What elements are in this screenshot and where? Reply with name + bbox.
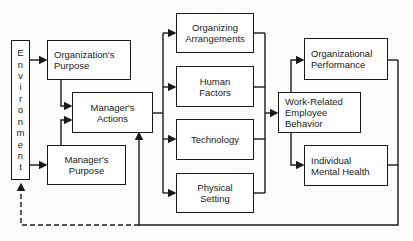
env-letter: v [18, 70, 23, 81]
env-letter: E [17, 47, 23, 58]
diagram-canvas: E n v i r o n m e n t Organization's Pur… [0, 0, 413, 241]
work-related-behavior-box: Work-Related Employee Behavior [278, 92, 361, 133]
technology-box: Technology [176, 119, 254, 160]
manager-actions-box: Manager's Actions [72, 92, 153, 133]
env-letter: m [17, 127, 25, 138]
env-letter: r [19, 93, 22, 104]
organizing-arrangements-box: Organizing Arrangements [176, 13, 254, 53]
manager-purpose-box: Manager's Purpose [47, 145, 126, 185]
physical-setting-box: Physical Setting [176, 173, 254, 213]
env-letter: n [18, 150, 23, 161]
env-letter: i [19, 81, 21, 92]
dashed-feedback-arrow [21, 184, 139, 225]
human-factors-box: Human Factors [176, 66, 254, 107]
env-letter: n [18, 116, 23, 127]
env-letter: n [18, 59, 23, 70]
org-purpose-box: Organization's Purpose [47, 40, 131, 80]
env-letter: e [18, 139, 23, 150]
env-letter: t [19, 161, 22, 172]
individual-mental-health-box: Individual Mental Health [304, 145, 388, 186]
organizational-performance-box: Organizational Performance [304, 38, 388, 80]
environment-box: E n v i r o n m e n t [11, 40, 30, 180]
env-letter: o [18, 104, 23, 115]
